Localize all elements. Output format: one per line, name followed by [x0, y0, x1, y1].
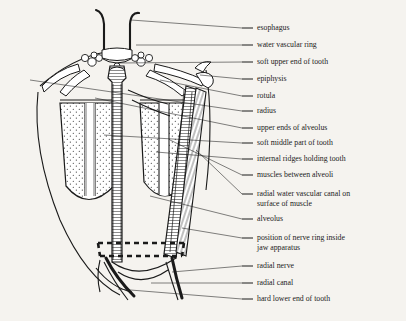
label-text-epiphysis: epiphysis — [257, 74, 286, 83]
label-text-soft-upper-end-of-tooth: soft upper end of tooth — [257, 57, 328, 66]
alveolus-left — [60, 100, 118, 200]
label-text-water-vascular-ring: water vascular ring — [257, 40, 317, 49]
label-text-alveolus: alveolus — [257, 214, 283, 223]
label-text-esophagus: esophagus — [257, 23, 289, 32]
label-text-internal-ridges-holding-tooth: internal ridges holding tooth — [257, 154, 346, 163]
label-text-radius: radius — [257, 106, 276, 115]
label-text-radial-nerve: radial nerve — [257, 261, 295, 270]
label-text-rotula: rotula — [257, 91, 276, 100]
jaw-apparatus-figure: esophaguswater vascular ringsoft upper e… — [0, 0, 406, 321]
label-text-soft-middle-part-of-tooth: soft middle part of tooth — [257, 138, 333, 147]
label-text-muscles-between-alveoli: muscles between alveoli — [257, 170, 334, 179]
label-text-radial-canal: radial canal — [257, 278, 294, 287]
label-text-upper-ends-of-alveolus: upper ends of alveolus — [257, 123, 327, 132]
label-text-hard-lower-end-of-tooth: hard lower end of tooth — [257, 294, 330, 303]
